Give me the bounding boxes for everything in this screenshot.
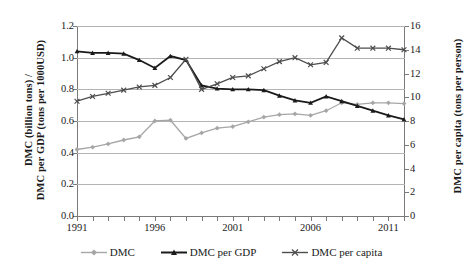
y-axis-right-tick: [405, 192, 409, 193]
x-axis-tick-label: 2001: [213, 222, 253, 233]
x-axis-tick-label: 2006: [291, 222, 331, 233]
y-axis-right-tick-label: 16: [410, 21, 430, 31]
x-axis-tick: [93, 217, 94, 221]
x-axis-tick: [373, 217, 374, 221]
legend-label: DMC per GDP: [190, 246, 257, 258]
legend-item-dmc-per-gdp[interactable]: DMC per GDP: [161, 246, 257, 258]
x-axis-tick: [124, 217, 125, 221]
y-axis-left-tick-label: 0.6: [48, 116, 74, 126]
series-dmc-per-capita: [75, 35, 407, 103]
cross-marker-icon: [282, 247, 308, 258]
series-dmc-per-gdp: [75, 49, 407, 122]
y-axis-right-tick-label: 4: [410, 164, 430, 174]
x-axis-tick: [295, 217, 296, 221]
plot-area: [77, 26, 405, 217]
legend-item-dmc[interactable]: DMC: [81, 246, 135, 258]
legend-item-dmc-per-capita[interactable]: DMC per capita: [282, 246, 382, 258]
x-axis-tick: [279, 217, 280, 221]
y-axis-right-tick-label: 2: [410, 187, 430, 197]
y-axis-right-tick: [405, 74, 409, 75]
x-axis-tick: [186, 217, 187, 221]
y-axis-left-title-line2: DMC per GDP (tons per 1000USD): [35, 30, 47, 210]
x-axis-tick: [155, 217, 156, 221]
series-dmc: [75, 100, 407, 152]
y-axis-left-tick-label: 0.0: [48, 211, 74, 221]
x-axis-tick: [139, 217, 140, 221]
y-axis-left-tick-label: 1.0: [48, 53, 74, 63]
y-axis-right-tick-label: 8: [410, 116, 430, 126]
x-axis-tick-label: 1996: [135, 222, 175, 233]
x-axis-tick: [233, 217, 234, 221]
y-axis-left-title-line1: DMC (billion tons) /: [23, 30, 35, 210]
y-axis-right-tick-label: 0: [410, 211, 430, 221]
x-axis-tick: [311, 217, 312, 221]
y-axis-right-title: DMC per capita (tons per person): [452, 26, 464, 206]
y-axis-left-tick-label: 0.4: [48, 148, 74, 158]
y-axis-right-tick: [405, 216, 409, 217]
x-axis-tick: [217, 217, 218, 221]
x-axis-tick: [404, 217, 405, 221]
x-axis-tick: [357, 217, 358, 221]
x-axis-tick: [264, 217, 265, 221]
x-axis-tick: [170, 217, 171, 221]
x-axis-tick: [388, 217, 389, 221]
x-axis-tick: [202, 217, 203, 221]
x-axis-tick: [326, 217, 327, 221]
y-axis-right-tick-label: 14: [410, 45, 430, 55]
x-axis-tick: [342, 217, 343, 221]
y-axis-left-title: DMC (billion tons) / DMC per GDP (tons p…: [23, 30, 47, 210]
x-axis-tick: [77, 217, 78, 221]
y-axis-right-tick-label: 6: [410, 140, 430, 150]
y-axis-left-tick-label: 1.2: [48, 21, 74, 31]
legend-label: DMC per capita: [311, 246, 382, 258]
x-axis-tick-label: 1991: [57, 222, 97, 233]
y-axis-right-tick-label: 12: [410, 69, 430, 79]
x-axis-tick-label: 2011: [368, 222, 408, 233]
chart-legend: DMCDMC per GDPDMC per capita: [0, 246, 463, 258]
x-axis-tick: [248, 217, 249, 221]
triangle-marker-icon: [161, 247, 187, 258]
y-axis-right-tick-label: 10: [410, 92, 430, 102]
y-axis-right-tick: [405, 169, 409, 170]
y-axis-right-tick: [405, 145, 409, 146]
series-layer: [77, 26, 405, 217]
y-axis-right-tick: [405, 97, 409, 98]
diamond-marker-icon: [81, 247, 107, 258]
x-axis-tick: [108, 217, 109, 221]
y-axis-left-tick-label: 0.8: [48, 84, 74, 94]
legend-label: DMC: [110, 246, 135, 258]
y-axis-left-tick-label: 0.2: [48, 179, 74, 189]
y-axis-right-tick: [405, 26, 409, 27]
